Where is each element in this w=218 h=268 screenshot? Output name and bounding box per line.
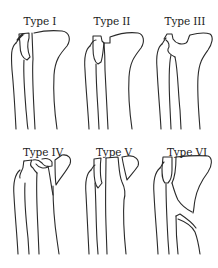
bone-drawing-type-4	[14, 155, 71, 254]
bone-drawing-type-6	[154, 156, 212, 254]
bone-drawing-type-3	[157, 33, 213, 129]
bone-drawing-type-1	[11, 31, 69, 129]
bone-drawing-type-5	[86, 156, 139, 254]
bone-drawing-type-2	[85, 33, 144, 129]
bone-drawings	[0, 0, 218, 268]
